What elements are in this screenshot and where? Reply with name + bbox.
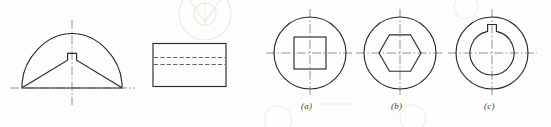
- figure-label-b: (b): [391, 101, 402, 111]
- side-rectangular-view: [153, 44, 226, 87]
- figure-label-c: (c): [484, 101, 495, 111]
- drawing-canvas: .obj { fill:none; stroke:#2b2b2b; stroke…: [0, 0, 551, 127]
- drawing-sheet: .obj { fill:none; stroke:#2b2b2b; stroke…: [0, 0, 551, 127]
- end-view-hex-bore: [356, 9, 444, 97]
- figure-label-a: (a): [301, 101, 312, 111]
- page-ghost-artifacts: [179, 0, 478, 127]
- end-view-square-bore: [266, 9, 354, 97]
- end-view-keyed-bore: [448, 9, 537, 97]
- side-view-outline: [153, 44, 226, 87]
- front-sectional-view: [10, 20, 135, 105]
